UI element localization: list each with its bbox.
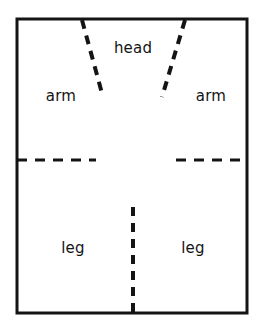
region-label-leg-right: leg [181, 241, 205, 256]
diagonal-dashed-line-right [162, 20, 185, 97]
outer-rectangle [17, 19, 247, 313]
region-label-arm-left: arm [46, 89, 76, 104]
body-region-diagram: head arm arm leg leg [0, 0, 264, 330]
region-label-arm-right: arm [196, 89, 226, 104]
region-label-head: head [114, 41, 152, 56]
region-label-leg-left: leg [61, 241, 85, 256]
diagonal-dashed-line-left [82, 20, 103, 97]
